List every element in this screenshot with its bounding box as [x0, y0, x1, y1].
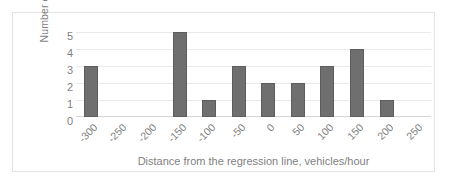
bar: [380, 100, 394, 117]
y-axis-title-label: Number of cases: [35, 0, 53, 47]
bar: [232, 66, 246, 117]
bar: [261, 83, 275, 117]
x-axis-title: Distance from the regression line, vehic…: [76, 155, 431, 167]
bar: [350, 49, 364, 117]
bar: [173, 32, 187, 117]
x-axis-tick-labels: -300-250-200-150-100-50050100150200250: [76, 117, 431, 155]
bar: [291, 83, 305, 117]
y-axis-tick-label: 2: [59, 82, 73, 93]
y-axis-tick-label: 5: [59, 31, 73, 42]
bar: [202, 100, 216, 117]
chart-frame: Number of cases 543210 -300-250-200-150-…: [12, 12, 435, 172]
y-axis-tick-label: 4: [59, 48, 73, 59]
histogram-figure: Number of cases 543210 -300-250-200-150-…: [0, 0, 452, 184]
bars-layer: [76, 32, 431, 117]
y-axis-tick-label: 0: [59, 116, 73, 127]
y-axis-title: Number of cases: [35, 0, 53, 47]
y-axis-tick-label: 1: [59, 99, 73, 110]
y-axis-tick-label: 3: [59, 65, 73, 76]
bar: [320, 66, 334, 117]
bar: [84, 66, 98, 117]
y-axis-tick-labels: 543210: [59, 27, 73, 121]
